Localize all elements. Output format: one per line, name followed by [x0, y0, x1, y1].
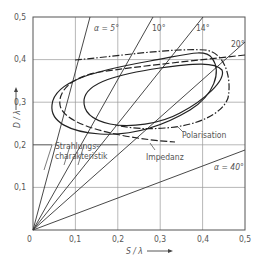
x-axis-ticks: 0 0,1 0,2 0,3 0,4 0,5: [27, 234, 251, 244]
y-tick-0.2: 0,2: [14, 140, 26, 150]
x-tick-0.5: 0,5: [239, 234, 251, 244]
label-alpha-5: α = 5°: [94, 23, 119, 33]
label-strahlungs: Strahlungs-: [55, 141, 99, 151]
ray-10deg: [33, 17, 153, 230]
alpha-rays: [33, 17, 245, 230]
x-tick-0.1: 0,1: [69, 234, 81, 244]
y-axis-label: D / λ: [12, 87, 22, 128]
x-tick-0.4: 0,4: [197, 234, 209, 244]
y-tick-0.5: 0,5: [14, 12, 26, 22]
label-polarisation: Polarisation: [182, 130, 227, 140]
svg-text:D / λ: D / λ: [12, 110, 22, 128]
x-tick-0.2: 0,2: [112, 234, 124, 244]
plot-frame: [33, 17, 245, 230]
grid-lines: [33, 17, 245, 230]
x-tick-0.3: 0,3: [154, 234, 166, 244]
y-tick-0.4: 0,4: [14, 54, 26, 64]
svg-text:S / λ: S / λ: [126, 246, 143, 256]
x-axis-arrow-icon: [168, 249, 173, 253]
label-alpha-10: 10°: [152, 23, 166, 33]
y-tick-0.1: 0,1: [14, 182, 26, 192]
label-alpha-20: 20°: [231, 39, 245, 49]
label-charakteristik: charakteristik: [55, 151, 108, 161]
chart: 0,5 0,4 0,3 0,2 0,1 0 0,1 0,2 0,3 0,4 0,…: [0, 0, 259, 264]
curve-polarisation: [75, 50, 229, 129]
label-impedanz: Impedanz: [146, 152, 184, 162]
x-tick-0: 0: [27, 234, 32, 244]
label-alpha-40: α = 40°: [214, 162, 244, 172]
curve-strahlungscharakteristik: [52, 53, 216, 134]
label-alpha-14: 14°: [196, 23, 210, 33]
x-axis-label: S / λ: [126, 246, 173, 256]
y-axis-arrow-icon: [14, 87, 18, 92]
curve-strahlungscharakteristik-inner: [84, 64, 223, 125]
